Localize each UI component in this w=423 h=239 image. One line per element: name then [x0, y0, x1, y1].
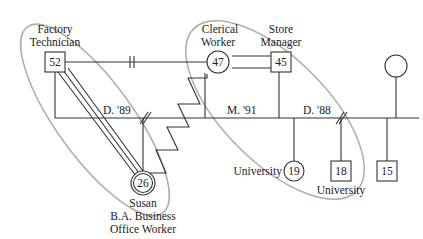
father-age: 52 [49, 56, 61, 68]
mother-occupation-2: Worker [201, 36, 235, 48]
stepfather-occupation-2: Manager [261, 36, 302, 49]
mother-age: 47 [212, 56, 224, 68]
conflict-zigzag [150, 74, 207, 173]
stepbrother-age: 18 [335, 165, 347, 177]
divorce-1-label: D. '89 [103, 104, 131, 116]
half-sister-note: University [233, 165, 282, 178]
stepfather-occupation-1: Store [269, 23, 293, 35]
marriage-label: M. '91 [227, 104, 257, 116]
divorce-2-label: D. '88 [303, 104, 331, 116]
stepbrother2-age: 15 [381, 165, 393, 177]
mother-occupation-1: Clerical [202, 23, 238, 35]
stepbrother-note: University [317, 184, 366, 197]
ex-wife-circle [385, 55, 407, 77]
enmeshed-line [58, 72, 136, 176]
half-sister-age: 19 [288, 165, 300, 177]
father-occupation-2: Technician [30, 36, 81, 48]
susan-education: B.A. Business [110, 210, 176, 222]
genogram-diagram: Factory Technician 52 Clerical Worker 47… [0, 0, 423, 239]
stepfather-age: 45 [275, 56, 287, 68]
susan-occupation: Office Worker [110, 223, 176, 235]
father-occupation-1: Factory [37, 23, 72, 36]
susan-age: 26 [137, 177, 149, 189]
susan-name: Susan [129, 197, 157, 209]
